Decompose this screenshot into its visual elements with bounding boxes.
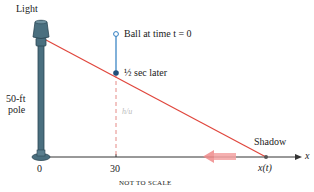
shadow-point	[264, 155, 268, 159]
pole-label-line2: pole	[8, 105, 25, 115]
ball-filled-circle-icon	[113, 70, 119, 76]
height-mark-label: h/u	[122, 108, 132, 116]
light-label: Light	[16, 4, 38, 14]
x-axis-arrowhead	[295, 154, 302, 160]
tick-label-30: 30	[110, 164, 120, 174]
not-to-scale-note: NOT TO SCALE	[119, 180, 172, 187]
light-ray	[46, 40, 266, 157]
ball-start-label: Ball at time t = 0	[124, 29, 192, 39]
x-axis-label: x	[305, 151, 309, 161]
ball-open-circle-icon	[114, 32, 119, 37]
shadow-position-label: x(t)	[258, 163, 272, 173]
left-arrow-icon	[203, 150, 236, 163]
pole-label-line1: 50-ft	[6, 94, 25, 104]
ball-half-second-label: ½ sec later	[124, 68, 167, 78]
tick-label-0: 0	[37, 164, 42, 174]
shadow-label: Shadow	[254, 137, 286, 147]
